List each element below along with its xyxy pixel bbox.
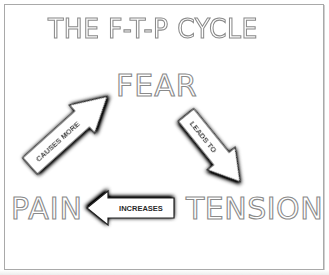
arrow-increases: INCREASES bbox=[0, 0, 329, 275]
clipped-bottom-strip bbox=[0, 270, 329, 275]
arrow-label-increases: INCREASES bbox=[119, 204, 163, 213]
